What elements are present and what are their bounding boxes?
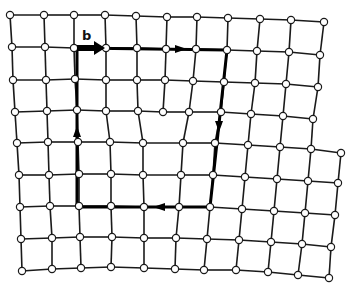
burgers-circuit: [73, 45, 227, 211]
vertical-bond: [105, 15, 106, 48]
vertical-bond: [179, 175, 181, 207]
horizontal-bond: [224, 82, 255, 83]
atom: [325, 274, 332, 281]
horizontal-bond: [105, 15, 136, 16]
horizontal-bond: [46, 79, 75, 80]
atom: [15, 171, 22, 178]
atom: [101, 11, 108, 18]
atom: [162, 45, 169, 52]
arrow-up-icon: [73, 126, 81, 137]
atom: [294, 271, 301, 278]
vertical-bond: [268, 242, 271, 272]
horizontal-bond: [136, 16, 167, 17]
atom: [327, 243, 334, 250]
atom: [46, 202, 53, 209]
vertical-bond: [318, 55, 320, 87]
atom: [334, 179, 341, 186]
atom: [73, 106, 80, 113]
vertical-bond: [204, 239, 207, 270]
vertical-bond: [165, 49, 166, 80]
vertical-bond: [331, 215, 335, 247]
atom: [107, 263, 114, 270]
vertical-bond: [17, 143, 19, 175]
atom: [159, 108, 166, 115]
vertical-bond: [298, 244, 302, 275]
atom: [185, 108, 192, 115]
atom: [42, 76, 49, 83]
atom: [267, 238, 274, 245]
vertical-bond: [12, 47, 13, 80]
atom: [8, 43, 15, 50]
horizontal-bond: [52, 237, 80, 238]
atom: [270, 207, 277, 214]
horizontal-bond: [251, 114, 283, 116]
vertical-bond: [302, 213, 305, 244]
atom: [77, 264, 84, 271]
horizontal-bond: [248, 145, 280, 147]
atom: [217, 108, 224, 115]
core-bond: [280, 116, 283, 147]
atom: [179, 139, 186, 146]
arrow-down-icon: [215, 121, 223, 132]
vertical-bond: [335, 183, 338, 215]
vertical-bond: [227, 18, 228, 50]
atom: [76, 233, 83, 240]
vertical-bond: [176, 207, 179, 238]
atom: [307, 145, 314, 152]
core-bond: [311, 119, 313, 149]
horizontal-bond: [311, 149, 341, 153]
atom: [9, 76, 16, 83]
atom: [251, 79, 258, 86]
horizontal-bond: [239, 240, 271, 242]
horizontal-bond: [302, 244, 331, 247]
horizontal-bond: [75, 79, 106, 80]
vertical-bond: [10, 15, 12, 47]
atom: [40, 11, 47, 18]
atom: [256, 15, 263, 22]
atom: [133, 76, 140, 83]
horizontal-bond: [77, 110, 106, 111]
vertical-bond: [19, 175, 20, 207]
horizontal-bond: [280, 147, 311, 149]
atom: [253, 47, 260, 54]
atom: [282, 80, 289, 87]
horizontal-bond: [268, 272, 298, 275]
atom: [189, 77, 196, 84]
burgers-vector: [77, 41, 105, 55]
horizontal-bond: [45, 47, 74, 48]
horizontal-bond: [298, 275, 329, 278]
atom: [247, 110, 254, 117]
atom: [102, 76, 109, 83]
horizontal-bond: [47, 110, 77, 111]
core-bond: [138, 111, 143, 143]
vertical-bond: [242, 177, 245, 209]
vertical-bond: [196, 17, 197, 49]
horizontal-bond: [49, 174, 79, 175]
vertical-bond: [313, 87, 318, 119]
atom: [139, 139, 146, 146]
atom: [320, 18, 327, 25]
vertical-bond: [274, 179, 277, 211]
atom: [232, 266, 239, 273]
vertical-bond: [283, 84, 286, 116]
atom: [331, 211, 338, 218]
atom: [223, 46, 230, 53]
horizontal-bond: [197, 17, 228, 18]
atom: [224, 14, 231, 21]
atom: [11, 108, 18, 115]
atom: [209, 171, 216, 178]
vertical-bond: [239, 209, 242, 240]
atom: [203, 235, 210, 242]
horizontal-bond: [215, 143, 248, 145]
vertical-bond: [49, 175, 50, 206]
atom: [75, 202, 82, 209]
atom: [107, 202, 114, 209]
atom: [301, 209, 308, 216]
atom: [41, 43, 48, 50]
horizontal-bond: [228, 18, 260, 19]
atom: [106, 138, 113, 145]
horizontal-bond: [283, 116, 313, 119]
atom: [172, 234, 179, 241]
atom: [244, 141, 251, 148]
vertical-bond: [207, 207, 210, 239]
